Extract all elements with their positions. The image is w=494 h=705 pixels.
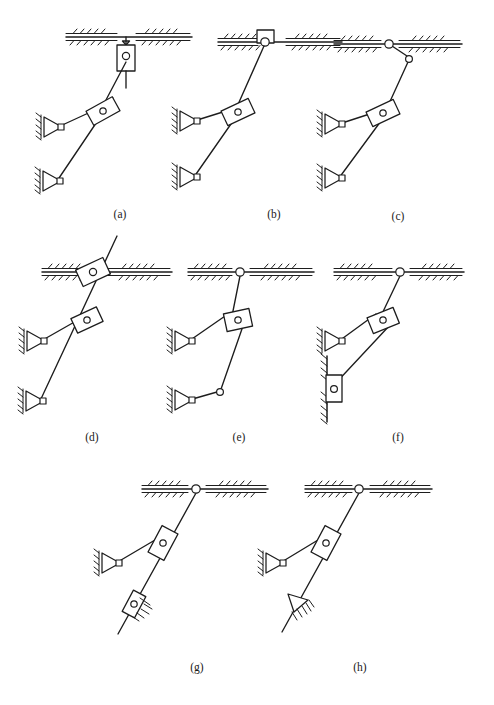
mid-slider-pin-a [100, 108, 106, 114]
mid-slider-pin-h [323, 540, 329, 546]
top-pin-c [385, 40, 393, 48]
figure-g: (g) [94, 481, 268, 674]
ground-line-g [142, 481, 268, 497]
ground-line-a [66, 29, 192, 45]
mid-slider-pin-c [380, 110, 386, 116]
knife-edge-contact-h [288, 594, 314, 620]
top-pin-g [192, 485, 200, 493]
figure-b: (b) [172, 30, 342, 221]
fixed-pivot-d-2 [18, 387, 46, 414]
caption-c: (c) [392, 210, 405, 223]
ground-line-h [305, 481, 432, 497]
mechanism-diagram-canvas: (a) [0, 0, 494, 705]
caption-f: (f) [392, 431, 404, 444]
fixed-pivot-b-1 [172, 107, 200, 134]
fixed-pivot-c-2 [317, 164, 345, 191]
fixed-pivot-c-1 [317, 110, 345, 137]
fixed-pivot-h-1 [258, 549, 286, 576]
fixed-pivot-d-1 [19, 327, 47, 354]
lower-free-pin-e [217, 389, 224, 396]
figure-sheet: (a) [0, 0, 494, 705]
caption-a: (a) [114, 208, 127, 221]
fixed-pivot-f-1 [317, 327, 345, 354]
links-f [333, 276, 400, 386]
mid-slider-pin-b [235, 109, 241, 115]
figure-d: (d) [18, 236, 172, 444]
ground-slider-pin-d [89, 268, 96, 275]
figure-h: (h) [258, 481, 432, 674]
caption-e: (e) [233, 431, 246, 444]
caption-h: (h) [353, 661, 367, 674]
figure-c: (c) [317, 36, 462, 223]
mid-slider-pin-g [160, 540, 166, 546]
top-block-on-ground-b [257, 30, 274, 46]
caption-d: (d) [85, 431, 99, 444]
top-pin-h [355, 485, 363, 493]
links-e [189, 276, 243, 400]
figure-f: (f) [317, 264, 464, 444]
fixed-pivot-e-1 [167, 327, 195, 354]
ground-line-e [188, 264, 314, 280]
caption-g: (g) [190, 661, 204, 674]
top-pin-f [396, 268, 404, 276]
fixed-pivot-g-1 [94, 549, 122, 576]
fixed-pivot-e-2 [167, 386, 195, 413]
figure-a: (a) [35, 29, 192, 221]
fixed-pivot-a-1 [36, 113, 64, 140]
fixed-pivot-a-2 [35, 167, 63, 194]
mid-slider-pin-d [84, 317, 90, 323]
free-pin-c [406, 56, 413, 63]
mid-slider-pin-f [380, 317, 386, 323]
ground-line-b [218, 34, 342, 50]
caption-b: (b) [267, 208, 281, 221]
top-pin-e [236, 268, 244, 276]
fixed-pivot-b-2 [172, 163, 200, 190]
mid-slider-pin-e [235, 317, 241, 323]
inclined-slider-block-g [122, 590, 152, 621]
links-h [280, 493, 359, 632]
figure-e: (e) [167, 264, 314, 444]
wall-slider-block-f [326, 375, 342, 402]
